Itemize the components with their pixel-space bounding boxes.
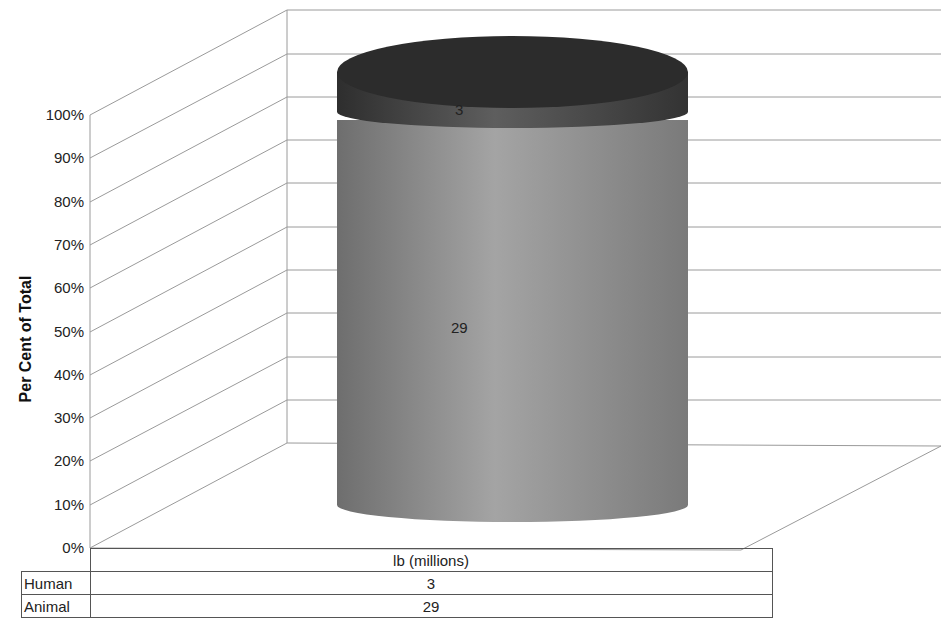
y-tick: 20% [4,452,84,469]
y-tick: 80% [4,193,84,210]
y-tick: 40% [4,366,84,383]
chart-plot-area [0,0,947,643]
row-value-animal: 29 [90,595,772,618]
table-row: Human 3 [22,572,773,595]
row-label-animal: Animal [22,595,91,618]
data-table-corner [22,549,91,572]
y-tick: 30% [4,409,84,426]
row-value-human: 3 [90,572,772,595]
data-table-header: lb (millions) [90,549,772,572]
data-label-animal: 29 [451,319,468,336]
y-tick: 70% [4,236,84,253]
y-tick: 50% [4,323,84,340]
data-table: lb (millions) Human 3 Animal 29 [21,548,773,618]
y-tick: 100% [4,106,84,123]
cylinder-bar [337,36,688,522]
table-row: Animal 29 [22,595,773,618]
y-tick: 90% [4,149,84,166]
data-label-human: 3 [455,101,463,118]
row-label-human: Human [22,572,91,595]
y-tick: 60% [4,279,84,296]
y-tick: 10% [4,496,84,513]
